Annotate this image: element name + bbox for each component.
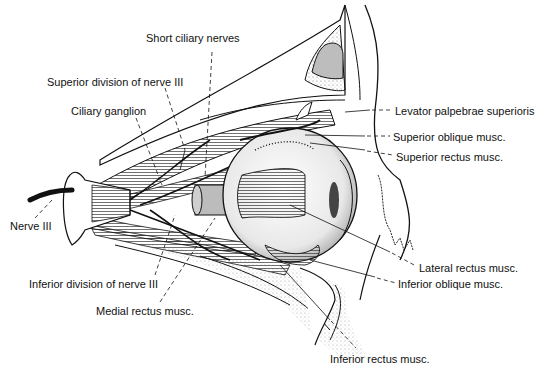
label-medial-rectus-musc: Medial rectus musc. <box>96 305 194 317</box>
label-inferior-division-nerve-iii: Inferior division of nerve III <box>29 278 158 290</box>
label-lateral-rectus-musc: Lateral rectus musc. <box>419 262 518 274</box>
anatomy-diagram: Short ciliary nerves Superior division o… <box>0 0 549 369</box>
label-superior-oblique-musc: Superior oblique musc. <box>393 131 506 143</box>
label-superior-rectus-musc: Superior rectus musc. <box>396 151 503 163</box>
label-nerve-iii: Nerve III <box>10 220 52 232</box>
label-levator-palpebrae-superioris: Levator palpebrae superioris <box>395 105 534 117</box>
label-inferior-rectus-musc: Inferior rectus musc. <box>330 353 430 365</box>
label-superior-division-nerve-iii: Superior division of nerve III <box>47 76 183 88</box>
label-ciliary-ganglion: Ciliary ganglion <box>71 105 146 117</box>
label-inferior-oblique-musc: Inferior oblique musc. <box>398 278 503 290</box>
lateral-rectus-insertion <box>238 169 306 218</box>
eye-orbit-illustration <box>0 0 549 369</box>
label-short-ciliary-nerves: Short ciliary nerves <box>146 32 240 44</box>
